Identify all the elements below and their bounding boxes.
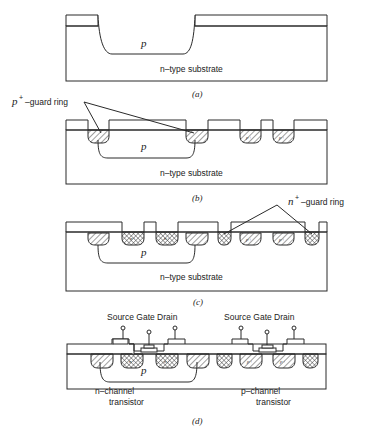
p-well-label: p xyxy=(140,364,147,376)
p-channel-gate xyxy=(259,330,276,352)
terminal-circle xyxy=(121,326,125,330)
p-channel-label-line1: p–channel xyxy=(241,386,280,396)
callout-leader xyxy=(84,102,194,133)
terminal-circle xyxy=(265,330,269,334)
terminal-circle xyxy=(173,326,177,330)
terminal-circle xyxy=(239,326,243,330)
p-well xyxy=(100,362,197,382)
p-plus-guard-ring xyxy=(186,233,208,245)
substrate-label: n–type substrate xyxy=(160,64,223,74)
cmos-process-diagram: p n–type substrate (a) p+ p+ p n–type su… xyxy=(0,0,367,439)
callout-leader xyxy=(277,205,312,234)
p-well xyxy=(98,140,195,158)
p-plus-guard-ring xyxy=(88,233,109,245)
svg-text:+: + xyxy=(295,194,299,201)
p-plus-guard-ring-left xyxy=(88,130,109,143)
svg-text:p+: p+ xyxy=(279,359,286,364)
p-well-label: p xyxy=(140,37,147,49)
caption-b: (b) xyxy=(192,193,203,203)
n-plus-guard-ring xyxy=(303,354,318,368)
p-well-label: p xyxy=(140,140,147,152)
panel-b: p+ p+ p n–type substrate p + –guard ring… xyxy=(11,94,327,203)
svg-text:+: + xyxy=(19,94,23,101)
caption-c: (c) xyxy=(193,297,203,307)
p-well-label: p xyxy=(140,246,147,258)
p-plus-guard-ring xyxy=(187,354,209,368)
p-channel-label-line2: transistor xyxy=(256,397,291,407)
p-channel-source-contact xyxy=(232,326,259,351)
panel-d: Source Gate Drain Source Gate Drain n+ n… xyxy=(67,312,326,426)
svg-text:p+: p+ xyxy=(245,135,252,140)
n-channel-gate xyxy=(141,330,157,352)
svg-text:–guard ring: –guard ring xyxy=(25,97,68,107)
svg-text:n+: n+ xyxy=(164,236,170,241)
oxide-right xyxy=(195,15,327,26)
callout-leader xyxy=(224,205,277,234)
svg-text:n: n xyxy=(288,195,294,207)
svg-text:n+: n+ xyxy=(130,236,136,241)
n-channel-drain-contact xyxy=(157,326,185,351)
terminal-circle xyxy=(292,326,296,330)
n-channel-label-line1: n–channel xyxy=(95,386,134,396)
oxide-layer xyxy=(67,344,326,354)
svg-text:n+: n+ xyxy=(129,359,135,364)
n-guard-ring-callout: n + –guard ring xyxy=(288,194,344,207)
p-plus-guard-ring xyxy=(91,354,113,368)
p-well xyxy=(98,15,195,54)
p-channel-drain-contact xyxy=(276,326,304,351)
p-guard-ring-callout: p + –guard ring xyxy=(11,94,68,107)
svg-text:p+: p+ xyxy=(278,237,285,242)
svg-text:–guard ring: –guard ring xyxy=(301,197,344,207)
svg-text:n+: n+ xyxy=(164,359,170,364)
n-channel-source-contact xyxy=(112,326,141,354)
substrate-label: n–type substrate xyxy=(160,272,223,282)
terminals-right-label: Source Gate Drain xyxy=(224,312,295,322)
panel-a: p n–type substrate (a) xyxy=(66,15,327,99)
terminals-left-label: Source Gate Drain xyxy=(107,312,178,322)
svg-text:p: p xyxy=(11,95,18,107)
n-channel-label-line2: transistor xyxy=(109,397,144,407)
svg-text:p+: p+ xyxy=(278,135,285,140)
p-well xyxy=(98,245,195,263)
callout-leader xyxy=(84,102,101,133)
terminal-circle xyxy=(147,330,151,334)
caption-d: (d) xyxy=(192,416,203,426)
caption-a: (a) xyxy=(192,89,203,99)
svg-text:p+: p+ xyxy=(246,359,253,364)
svg-text:p+: p+ xyxy=(245,237,252,242)
n-plus-guard-ring xyxy=(217,354,232,368)
substrate-label: n–type substrate xyxy=(160,168,223,178)
oxide-left xyxy=(66,15,98,26)
panel-c: n+ n+ p+ p+ p n–type substrate n + –guar… xyxy=(66,194,344,307)
